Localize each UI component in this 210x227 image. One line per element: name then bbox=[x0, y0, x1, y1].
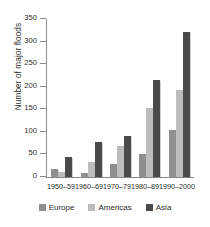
bar-americas bbox=[117, 146, 124, 177]
x-axis-label: 1970–79 bbox=[103, 182, 131, 191]
bar-americas bbox=[146, 108, 153, 177]
legend-label: Asia bbox=[156, 203, 172, 212]
legend-swatch-icon bbox=[88, 204, 95, 211]
legend-swatch-icon bbox=[39, 204, 46, 211]
x-axis-line bbox=[46, 177, 194, 178]
y-axis-tick-label: 0 bbox=[33, 171, 37, 180]
bar-americas bbox=[176, 90, 183, 177]
y-axis-tick-label: 150 bbox=[24, 103, 37, 112]
bar-americas bbox=[58, 172, 65, 177]
bar-europe bbox=[139, 154, 146, 177]
bar-europe bbox=[51, 169, 58, 177]
y-axis-tick: 0 bbox=[40, 176, 46, 177]
legend-item-americas: Americas bbox=[88, 203, 131, 212]
bar-europe bbox=[169, 130, 176, 177]
legend-label: Europe bbox=[49, 203, 75, 212]
y-axis-tick-label: 300 bbox=[24, 36, 37, 45]
y-axis-tick-label: 200 bbox=[24, 81, 37, 90]
x-axis-label: 1980–89 bbox=[131, 182, 159, 191]
bar-asia bbox=[65, 157, 72, 177]
bar-group bbox=[47, 19, 76, 177]
legend-item-europe: Europe bbox=[39, 203, 75, 212]
bar-asia bbox=[124, 136, 131, 177]
x-axis-label: 1950–59 bbox=[47, 182, 75, 191]
y-axis-tick-label: 250 bbox=[24, 58, 37, 67]
y-axis-tick: 100 bbox=[40, 131, 46, 132]
legend-swatch-icon bbox=[146, 204, 153, 211]
bar-asia bbox=[183, 32, 190, 177]
bar-group bbox=[135, 19, 164, 177]
bar-europe bbox=[81, 173, 88, 177]
bar-americas bbox=[88, 162, 95, 177]
legend-item-asia: Asia bbox=[146, 203, 172, 212]
flood-bar-chart: Number of major floods 05010015020025030… bbox=[0, 0, 210, 227]
y-axis-title: Number of major floods bbox=[14, 0, 23, 137]
y-axis-tick: 300 bbox=[40, 41, 46, 42]
y-axis-tick-label: 100 bbox=[24, 126, 37, 135]
y-axis-tick: 250 bbox=[40, 63, 46, 64]
y-axis-tick: 150 bbox=[40, 108, 46, 109]
bars-layer bbox=[47, 19, 194, 177]
x-axis-label: 1960–69 bbox=[75, 182, 103, 191]
plot-area: 050100150200250300350 bbox=[46, 19, 194, 178]
bar-asia bbox=[153, 80, 160, 178]
bar-group bbox=[76, 19, 105, 177]
legend-label: Americas bbox=[98, 203, 131, 212]
y-axis-tick-label: 50 bbox=[29, 148, 37, 157]
bar-group bbox=[165, 19, 194, 177]
bar-europe bbox=[110, 164, 117, 177]
y-axis-tick: 350 bbox=[40, 18, 46, 19]
bar-group bbox=[106, 19, 135, 177]
bar-asia bbox=[95, 142, 102, 177]
y-axis-tick-label: 350 bbox=[24, 13, 37, 22]
y-axis-tick: 200 bbox=[40, 86, 46, 87]
y-axis-tick: 50 bbox=[40, 153, 46, 154]
x-axis-label: 1990–2000 bbox=[159, 182, 195, 191]
chart-legend: EuropeAmericasAsia bbox=[0, 203, 210, 212]
x-axis-labels: 1950–591960–691970–791980–891990–2000 bbox=[47, 182, 194, 191]
